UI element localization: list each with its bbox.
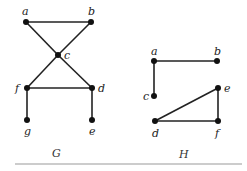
vertex-b xyxy=(214,58,220,64)
vertex-label: f xyxy=(214,127,221,140)
vertex-label: e xyxy=(89,125,96,138)
vertex-a xyxy=(23,19,29,25)
vertex-label: c xyxy=(143,90,149,103)
vertex-label: a xyxy=(22,5,29,18)
vertex-f xyxy=(24,85,30,91)
vertex-a xyxy=(151,58,157,64)
vertex-d xyxy=(89,85,95,91)
edge-d-e xyxy=(155,88,218,121)
graph-diagram: abcfdgeGabcedfH xyxy=(0,0,247,171)
graph-caption: G xyxy=(52,147,61,160)
vertex-c xyxy=(55,52,61,58)
vertex-b xyxy=(88,19,94,25)
vertex-f xyxy=(215,118,221,124)
vertex-label: g xyxy=(24,125,31,138)
vertex-g xyxy=(24,117,30,123)
graph-G: abcfdgeG xyxy=(14,5,105,160)
vertex-label: b xyxy=(88,5,95,18)
edge-c-f xyxy=(27,55,58,88)
vertex-label: d xyxy=(152,127,159,140)
vertex-label: a xyxy=(151,45,158,58)
vertex-label: c xyxy=(64,49,70,62)
vertex-c xyxy=(151,93,157,99)
vertex-e xyxy=(215,85,221,91)
vertex-label: f xyxy=(14,82,21,95)
vertex-label: e xyxy=(224,82,231,95)
edge-b-c xyxy=(58,22,91,55)
vertex-label: d xyxy=(98,82,105,95)
vertex-label: b xyxy=(214,45,221,58)
graph-caption: H xyxy=(178,148,189,161)
edge-a-c xyxy=(26,22,58,55)
vertex-d xyxy=(152,118,158,124)
vertex-e xyxy=(89,117,95,123)
graph-H: abcedfH xyxy=(143,45,231,161)
